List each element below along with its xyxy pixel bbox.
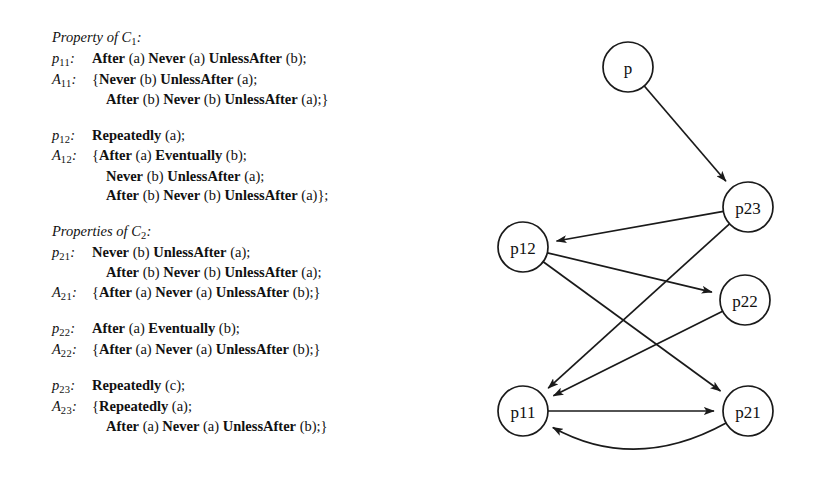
- spec-keyword: After: [106, 91, 139, 107]
- label-subscript: 12: [59, 134, 70, 145]
- spec-line-label: A22:: [52, 340, 92, 361]
- spec-line-text: {Repeatedly (a);: [92, 397, 192, 417]
- spec-line: xNever (b) UnlessAfter (a);: [52, 167, 452, 187]
- spec-keyword: Repeatedly: [99, 398, 168, 414]
- spec-line-text: After (b) Never (b) UnlessAfter (a)};: [92, 186, 328, 206]
- spec-line-text: {After (a) Never (a) UnlessAfter (b);}: [92, 283, 321, 303]
- spec-block: p23:Repeatedly (c);A23:{Repeatedly (a);x…: [52, 376, 452, 437]
- spec-keyword: Never: [163, 91, 200, 107]
- spec-keyword: Never: [163, 264, 200, 280]
- graph-node-p22[interactable]: p22: [720, 275, 770, 325]
- graph-edge-p22-to-p11: [553, 311, 722, 396]
- spec-keyword: UnlessAfter: [224, 187, 297, 203]
- spec-line-text: After (b) Never (b) UnlessAfter (a);: [92, 263, 321, 283]
- graph-node-p21[interactable]: p21: [723, 386, 773, 436]
- spec-line-label: A11:: [52, 70, 92, 91]
- heading-subscript: 2: [141, 230, 147, 241]
- spec-line-label: A21:: [52, 283, 92, 304]
- spec-keyword: Never: [148, 50, 185, 66]
- spec-line-text: After (a) Eventually (b);: [92, 319, 240, 339]
- label-subscript: 21: [61, 291, 72, 302]
- spec-keyword: Never: [163, 187, 200, 203]
- spec-line: p11:After (a) Never (a) UnlessAfter (b);: [52, 49, 452, 70]
- spec-keyword: After: [99, 341, 132, 357]
- specification-text-column: Property of C1:p11:After (a) Never (a) U…: [52, 28, 452, 437]
- spec-line-text: After (a) Never (a) UnlessAfter (b);: [92, 49, 307, 69]
- spec-keyword: After: [106, 418, 139, 434]
- graph-edge-p21-to-p11: [553, 423, 726, 449]
- spec-keyword: UnlessAfter: [160, 71, 233, 87]
- label-subscript: 22: [61, 348, 72, 359]
- spec-keyword: UnlessAfter: [167, 168, 240, 184]
- spec-line-text: Repeatedly (a);: [92, 126, 185, 146]
- spec-keyword: UnlessAfter: [224, 91, 297, 107]
- spec-keyword: Never: [99, 71, 136, 87]
- spec-keyword: UnlessAfter: [224, 264, 297, 280]
- spec-block: Property of C1:p11:After (a) Never (a) U…: [52, 28, 452, 110]
- graph-node-p[interactable]: p: [603, 42, 653, 92]
- spec-keyword: After: [92, 50, 125, 66]
- spec-keyword: UnlessAfter: [216, 284, 289, 300]
- spec-keyword: After: [106, 187, 139, 203]
- label-subscript: 23: [59, 384, 70, 395]
- spec-line: A22:{After (a) Never (a) UnlessAfter (b)…: [52, 340, 452, 361]
- spec-keyword: UnlessAfter: [209, 50, 282, 66]
- node-label-p: p: [624, 59, 633, 78]
- spec-line: p23:Repeatedly (c);: [52, 376, 452, 397]
- spec-line: A23:{Repeatedly (a);: [52, 397, 452, 418]
- spec-keyword: UnlessAfter: [153, 244, 226, 260]
- spec-keyword: Eventually: [148, 320, 215, 336]
- spec-line-text: After (b) Never (b) UnlessAfter (a);}: [92, 90, 328, 110]
- spec-line-label: p12:: [52, 126, 92, 147]
- label-subscript: 23: [61, 405, 72, 416]
- label-subscript: 11: [61, 78, 72, 89]
- graph-edges-layer: [543, 86, 729, 449]
- spec-keyword: Never: [155, 341, 192, 357]
- spec-line: xAfter (b) Never (b) UnlessAfter (a);}: [52, 90, 452, 110]
- heading-subscript: 1: [131, 36, 137, 47]
- node-label-p11: p11: [511, 403, 536, 422]
- spec-line-text: {After (a) Eventually (b);: [92, 146, 247, 166]
- graph-node-p23[interactable]: p23: [723, 182, 773, 232]
- spec-line-label: p22:: [52, 319, 92, 340]
- spec-keyword: UnlessAfter: [223, 418, 296, 434]
- spec-line-text: {Never (b) UnlessAfter (a);: [92, 70, 257, 90]
- graph-node-p12[interactable]: p12: [498, 222, 548, 272]
- spec-line: A11:{Never (b) UnlessAfter (a);: [52, 70, 452, 91]
- spec-line: xAfter (b) Never (b) UnlessAfter (a)};: [52, 186, 452, 206]
- node-label-p23: p23: [735, 199, 761, 218]
- spec-block: p12:Repeatedly (a);A12:{After (a) Eventu…: [52, 126, 452, 206]
- spec-keyword: Never: [162, 418, 199, 434]
- label-subscript: 22: [59, 327, 70, 338]
- graph-edge-p12-to-p22: [547, 253, 712, 292]
- spec-block-heading: Properties of C2:: [52, 222, 452, 242]
- spec-keyword: Repeatedly: [92, 127, 161, 143]
- graph-nodes-layer: pp23p12p22p11p21: [498, 42, 773, 436]
- spec-line-text: Repeatedly (c);: [92, 376, 185, 396]
- spec-line: A21:{After (a) Never (a) UnlessAfter (b)…: [52, 283, 452, 304]
- spec-keyword: Never: [106, 168, 143, 184]
- spec-line-label: p21:: [52, 243, 92, 264]
- spec-keyword: UnlessAfter: [216, 341, 289, 357]
- node-label-p22: p22: [732, 292, 758, 311]
- label-subscript: 21: [59, 251, 70, 262]
- spec-keyword: Eventually: [155, 147, 222, 163]
- spec-line-label: A12:: [52, 146, 92, 167]
- spec-keyword: After: [92, 320, 125, 336]
- spec-block-heading: Property of C1:: [52, 28, 452, 48]
- spec-line-text: Never (b) UnlessAfter (a);: [92, 243, 250, 263]
- spec-keyword: After: [106, 264, 139, 280]
- spec-keyword: After: [99, 284, 132, 300]
- graph-node-p11[interactable]: p11: [498, 386, 548, 436]
- spec-keyword: After: [99, 147, 132, 163]
- spec-line: A12:{After (a) Eventually (b);: [52, 146, 452, 167]
- spec-keyword: Never: [155, 284, 192, 300]
- spec-line-label: p11:: [52, 49, 92, 70]
- node-label-p12: p12: [510, 239, 536, 258]
- graph-edge-p-to-p23: [644, 86, 726, 181]
- spec-line: xAfter (b) Never (b) UnlessAfter (a);: [52, 263, 452, 283]
- spec-line: xAfter (a) Never (a) UnlessAfter (b);}: [52, 417, 452, 437]
- dependency-graph: pp23p12p22p11p21: [455, 0, 813, 498]
- node-label-p21: p21: [735, 403, 761, 422]
- spec-keyword: Never: [92, 244, 129, 260]
